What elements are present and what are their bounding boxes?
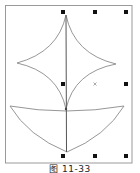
diagram-canvas: [0, 0, 140, 173]
handle-top-left[interactable]: [61, 10, 65, 14]
vertical-axis-line[interactable]: [66, 15, 67, 152]
figure-frame: [6, 6, 133, 164]
handle-bottom-center[interactable]: [93, 154, 97, 158]
handle-top-center[interactable]: [93, 10, 97, 14]
figure-caption: 图 11-33: [0, 164, 140, 173]
handle-middle-right[interactable]: [124, 82, 128, 86]
handle-middle-left[interactable]: [61, 82, 65, 86]
center-marker-icon: [94, 83, 97, 86]
handle-top-right[interactable]: [124, 10, 128, 14]
selection-handles: [61, 10, 128, 158]
handle-bottom-left[interactable]: [61, 154, 65, 158]
junction-point: [65, 108, 67, 110]
bowl-left-curve[interactable]: [10, 106, 67, 152]
bowl-right-curve[interactable]: [67, 106, 124, 152]
handle-bottom-right[interactable]: [124, 154, 128, 158]
